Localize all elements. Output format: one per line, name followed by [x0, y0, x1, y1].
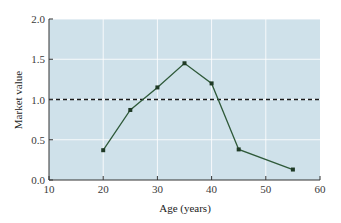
x-tick-label: 50 [260, 183, 272, 195]
data-point [210, 81, 214, 85]
x-tick-label: 60 [315, 183, 327, 195]
data-point [183, 61, 187, 65]
data-point [128, 108, 132, 112]
x-tick-label: 10 [44, 183, 56, 195]
data-point [291, 168, 295, 172]
y-axis-label: Market value [12, 71, 24, 129]
data-point [155, 85, 159, 89]
x-tick-label: 20 [98, 183, 110, 195]
x-axis-label: Age (years) [159, 202, 211, 215]
y-tick-label: 0.5 [31, 134, 45, 146]
y-tick-label: 2.0 [31, 13, 45, 25]
y-tick-labels: 0.00.51.01.52.0 [31, 13, 45, 186]
market-value-chart: 102030405060 0.00.51.01.52.0 Age (years)… [0, 0, 341, 223]
data-point [101, 148, 105, 152]
y-tick-label: 0.0 [31, 174, 45, 186]
x-tick-label: 40 [206, 183, 218, 195]
y-tick-label: 1.0 [31, 94, 45, 106]
x-tick-label: 30 [152, 183, 164, 195]
y-tick-label: 1.5 [31, 53, 45, 65]
data-point [237, 147, 241, 151]
x-tick-labels: 102030405060 [44, 183, 327, 195]
